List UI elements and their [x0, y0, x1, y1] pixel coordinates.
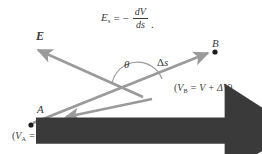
equation-fraction: dV ds	[133, 7, 148, 30]
label-field-component-e1: E1	[66, 127, 76, 140]
label-potential-b: (VB = V + ΔV)	[174, 83, 232, 94]
equation-period: .	[151, 19, 154, 30]
equation-minus-sign: −	[123, 13, 130, 24]
label-point-a: A	[37, 104, 44, 115]
label-field-vector-E: E	[36, 30, 44, 42]
label-angle-theta: θ	[124, 59, 129, 70]
fraction-numerator: dV	[133, 7, 148, 18]
equation-equals-sign: =	[113, 13, 119, 24]
physics-diagram: Es = − dV ds . E θ Δs B (VB = V + ΔV) A …	[0, 0, 262, 154]
equation-es-equals-minus-dv-ds: Es = − dV ds .	[101, 7, 154, 30]
label-displacement-delta-s: Δs	[157, 57, 168, 68]
label-potential-a: (VA = V)	[12, 131, 47, 142]
s-symbol: s	[164, 56, 168, 68]
va-expression: = V)	[28, 130, 47, 141]
e1-symbol: E	[66, 126, 73, 138]
label-point-b: B	[212, 38, 219, 49]
vb-expression: = V + ΔV)	[190, 82, 232, 93]
equation-lhs: Es	[101, 12, 110, 25]
fraction-denominator: ds	[134, 20, 147, 31]
e1-subscript: 1	[73, 132, 76, 139]
point-a-dot	[28, 122, 33, 127]
